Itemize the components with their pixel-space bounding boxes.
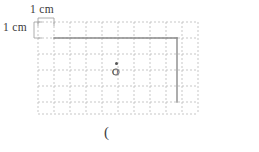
point-o-marker-dot bbox=[115, 62, 118, 65]
caption-parenthesis: ( bbox=[104, 125, 109, 140]
point-o-label: O bbox=[112, 68, 119, 77]
grid-and-shape-graphic bbox=[0, 0, 259, 152]
geometry-figure-canvas: 1 cm 1 cm O ( bbox=[0, 0, 259, 152]
scale-label-left: 1 cm bbox=[3, 22, 27, 34]
scale-label-top: 1 cm bbox=[30, 4, 54, 16]
